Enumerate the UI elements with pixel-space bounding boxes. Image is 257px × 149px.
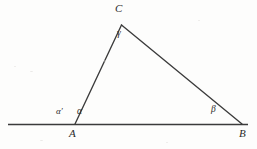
triangle-diagram-svg [0, 0, 257, 149]
angle-label-alpha: α [77, 107, 82, 117]
vertex-label-b: B [239, 128, 246, 139]
paper-speckle [14, 66, 16, 67]
figure-background [0, 0, 257, 149]
angle-label-beta: β [211, 105, 216, 115]
paper-speckle [198, 20, 200, 21]
geometry-figure: C γ α′ α β A B [0, 0, 257, 149]
vertex-label-a: A [69, 128, 76, 139]
vertex-label-c: C [115, 3, 122, 14]
paper-speckle [30, 71, 33, 72]
paper-speckle [104, 60, 106, 62]
paper-speckle [166, 142, 168, 143]
paper-speckle [40, 140, 43, 141]
angle-label-gamma: γ [117, 29, 121, 39]
angle-label-alpha-prime: α′ [56, 107, 63, 116]
